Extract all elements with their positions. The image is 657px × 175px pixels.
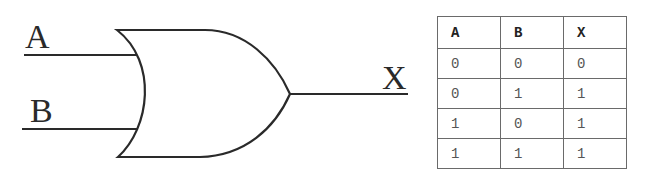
truth-table: A B X 0 0 0 0 1 1 1 0 1 1 1 1 — [437, 16, 627, 169]
cell-x: 1 — [564, 139, 627, 169]
cell-x: 1 — [564, 109, 627, 139]
header-a: A — [438, 17, 501, 49]
header-b: B — [501, 17, 564, 49]
input-b-label: B — [30, 94, 53, 128]
input-a-label: A — [25, 20, 50, 54]
output-x-label: X — [382, 61, 407, 95]
or-gate-symbol — [117, 30, 290, 157]
cell-b: 0 — [501, 49, 564, 79]
cell-a: 0 — [438, 79, 501, 109]
cell-b: 1 — [501, 139, 564, 169]
table-row: 1 1 1 — [438, 139, 627, 169]
cell-b: 1 — [501, 79, 564, 109]
header-x: X — [564, 17, 627, 49]
table-header-row: A B X — [438, 17, 627, 49]
cell-a: 0 — [438, 49, 501, 79]
cell-b: 0 — [501, 109, 564, 139]
table-row: 0 0 0 — [438, 49, 627, 79]
cell-a: 1 — [438, 109, 501, 139]
cell-a: 1 — [438, 139, 501, 169]
table-row: 1 0 1 — [438, 109, 627, 139]
table-row: 0 1 1 — [438, 79, 627, 109]
cell-x: 1 — [564, 79, 627, 109]
cell-x: 0 — [564, 49, 627, 79]
